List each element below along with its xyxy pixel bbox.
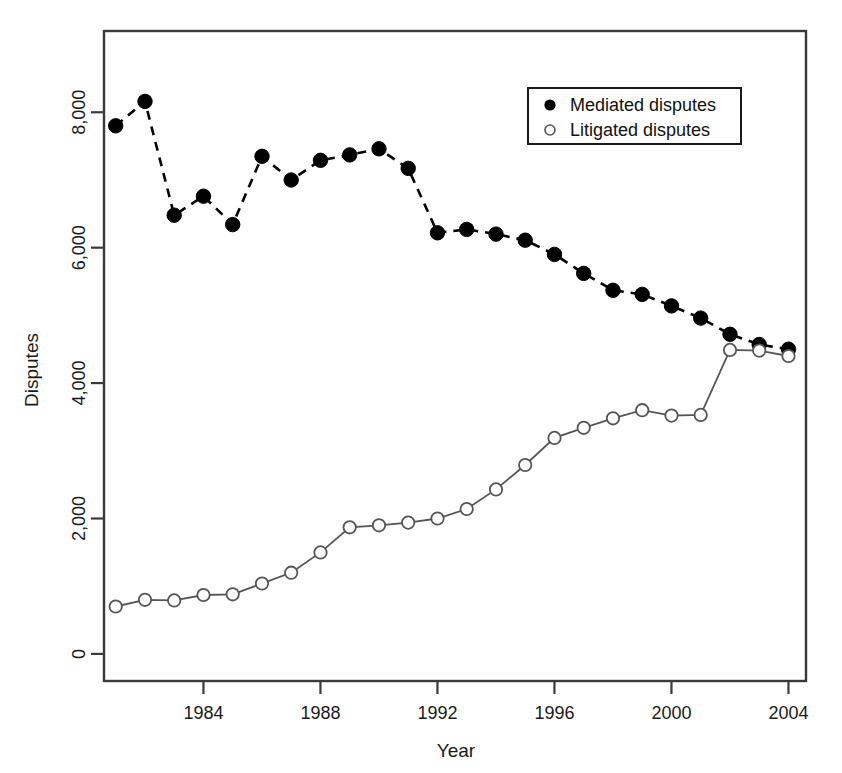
data-point (578, 422, 590, 434)
data-point (431, 512, 443, 524)
x-tick-label: 1992 (417, 703, 457, 723)
data-point (139, 594, 151, 606)
data-point (606, 283, 620, 297)
legend-label: Mediated disputes (570, 95, 716, 115)
data-point (607, 412, 619, 424)
data-point (461, 503, 473, 515)
data-point (109, 119, 123, 133)
data-point (636, 404, 648, 416)
data-point (196, 189, 210, 203)
legend-marker-open-circle-icon (545, 125, 555, 135)
data-point (695, 409, 707, 421)
data-point (547, 247, 561, 261)
chart-container: 198419881992199620002004 02,0004,0006,00… (0, 0, 842, 773)
data-point (256, 577, 268, 589)
data-point (665, 409, 677, 421)
data-point (402, 516, 414, 528)
data-point (167, 208, 181, 222)
y-axis-title: Disputes (21, 333, 42, 407)
data-point (373, 519, 385, 531)
data-point (489, 227, 503, 241)
data-point (430, 226, 444, 240)
x-tick-label: 1996 (534, 703, 574, 723)
data-point (490, 483, 502, 495)
data-point (724, 344, 736, 356)
data-point (197, 589, 209, 601)
data-point (548, 432, 560, 444)
data-point (519, 459, 531, 471)
x-tick-label: 1984 (183, 703, 223, 723)
data-point (372, 142, 386, 156)
data-point (343, 148, 357, 162)
data-point (110, 600, 122, 612)
legend-label: Litigated disputes (570, 120, 710, 140)
y-tick-label: 8,000 (69, 90, 89, 135)
data-point (401, 161, 415, 175)
x-tick-label: 2004 (768, 703, 808, 723)
x-tick-label: 2000 (651, 703, 691, 723)
legend-marker-filled-circle-icon (544, 99, 555, 110)
data-point (138, 94, 152, 108)
data-point (723, 327, 737, 341)
data-point (168, 594, 180, 606)
data-point (227, 588, 239, 600)
data-point (284, 173, 298, 187)
data-point (226, 217, 240, 231)
chart-legend: Mediated disputesLitigated disputes (528, 88, 741, 144)
data-point (753, 344, 765, 356)
data-point (518, 233, 532, 247)
data-point (664, 299, 678, 313)
x-tick-label: 1988 (300, 703, 340, 723)
data-point (313, 153, 327, 167)
y-tick-label: 0 (69, 649, 89, 659)
data-point (694, 311, 708, 325)
data-point (255, 149, 269, 163)
data-point (577, 266, 591, 280)
y-tick-label: 6,000 (69, 225, 89, 270)
data-point (314, 546, 326, 558)
data-point (782, 350, 794, 362)
y-tick-label: 2,000 (69, 496, 89, 541)
dispute-trends-line-chart: 198419881992199620002004 02,0004,0006,00… (0, 0, 842, 773)
data-point (344, 521, 356, 533)
data-point (285, 567, 297, 579)
data-point (635, 287, 649, 301)
x-axis-title: Year (437, 740, 476, 761)
data-point (460, 222, 474, 236)
y-tick-label: 4,000 (69, 361, 89, 406)
